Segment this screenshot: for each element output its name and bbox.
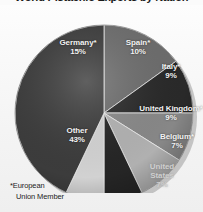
chart-plate: Germany* 15% Spain* 10% Italy* 9% United…	[0, 5, 203, 212]
footnote-line-2: Union Member	[10, 192, 96, 203]
pie-svg	[11, 13, 197, 193]
footnote: *European Union Member	[10, 181, 96, 203]
pie-graphic: Germany* 15% Spain* 10% Italy* 9% United…	[11, 13, 197, 193]
pie-chart-figure: World Pistachio Exports by Nation Germa	[0, 0, 203, 212]
chart-title: World Pistachio Exports by Nation	[0, 0, 203, 3]
footnote-line-1: *European	[10, 181, 96, 192]
